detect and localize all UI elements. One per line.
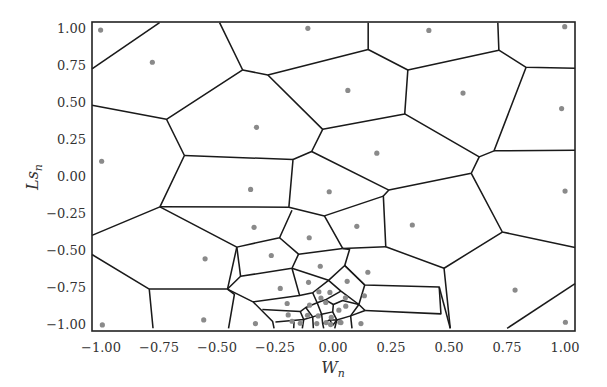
voronoi-edge [499,50,575,68]
data-point [305,313,310,318]
data-point [358,321,363,326]
data-point [362,293,367,298]
data-point [410,222,415,227]
data-point [354,224,359,229]
voronoi-edge [343,248,350,265]
y-tick-label: 0.00 [57,169,86,184]
voronoi-edge [313,317,314,328]
data-point [316,313,321,318]
data-point [307,235,312,240]
data-point [345,88,350,93]
x-tick-label: −1.00 [81,340,121,355]
x-tick-label: 1.00 [551,340,580,355]
data-point [298,321,303,326]
data-point [327,189,332,194]
voronoi-sites [98,24,568,327]
data-point [251,225,256,230]
voronoi-chart: 1.00 0.75 0.50 0.25 0.00 −0.25 −0.50 −0.… [0,0,607,387]
data-point [365,270,370,275]
voronoi-edge [323,70,408,129]
data-point [426,28,431,33]
voronoi-edge [280,238,343,254]
y-axis-ticks: 1.00 0.75 0.50 0.25 0.00 −0.25 −0.50 −0.… [46,21,86,332]
x-axis-ticks: −1.00 −0.75 −0.50 −0.25 0.00 0.25 0.50 0… [81,340,579,355]
voronoi-edge [149,247,237,289]
voronoi-edge [405,67,526,157]
voronoi-edge [351,316,352,328]
x-tick-label: −0.75 [139,340,179,355]
x-tick-label: 0.50 [435,340,464,355]
data-point [338,320,343,325]
data-point [323,300,328,305]
data-point [318,296,323,301]
voronoi-edge [228,289,235,328]
x-tick-label: 0.00 [319,340,348,355]
data-point [374,151,379,156]
data-point [100,322,105,327]
data-point [99,159,104,164]
data-point [98,27,103,32]
data-point [203,256,208,261]
x-tick-label: −0.50 [197,340,237,355]
data-point [278,286,283,291]
voronoi-edge [300,280,329,295]
voronoi-edge [343,247,386,249]
voronoi-edge [494,150,575,151]
plot-area [92,23,575,329]
x-axis-label: Wn [321,358,345,380]
voronoi-edges [92,23,575,329]
voronoi-edge [324,196,383,216]
data-point [305,26,310,31]
x-tick-label: 0.75 [493,340,522,355]
data-point [248,187,253,192]
y-tick-label: −1.00 [46,317,86,332]
data-point [562,188,567,193]
voronoi-edge [312,151,480,190]
data-point [328,322,333,327]
data-point [254,125,259,130]
x-tick-label: 0.25 [377,340,406,355]
voronoi-edge [471,173,575,247]
voronoi-edge [322,314,324,328]
data-point [512,287,517,292]
voronoi-edge [383,190,444,268]
voronoi-edge [368,23,499,70]
voronoi-edge [92,23,243,120]
voronoi-edge [92,254,153,328]
voronoi-edge [92,119,184,235]
data-point [285,301,290,306]
data-point [318,264,323,269]
y-tick-label: 1.00 [57,21,86,36]
x-tick-label: −0.25 [255,340,295,355]
data-point [253,321,258,326]
data-point [286,312,291,317]
data-point [562,24,567,29]
y-tick-label: 0.75 [57,58,86,73]
voronoi-edge [237,247,241,276]
data-point [150,60,155,65]
data-point [343,304,348,309]
y-tick-label: −0.25 [46,206,86,221]
data-point [329,315,334,320]
y-tick-label: −0.75 [46,280,86,295]
data-point [289,319,294,324]
voronoi-edge [243,23,369,75]
data-point [345,279,350,284]
voronoi-edge [262,293,317,312]
y-tick-label: 0.50 [57,95,86,110]
data-point [336,308,341,313]
data-point [563,320,568,325]
y-tick-label: 0.25 [57,132,86,147]
data-point [324,320,329,325]
voronoi-edge [160,207,292,247]
data-point [460,91,465,96]
data-point [314,321,319,326]
y-axis-label: Lsn [23,164,45,191]
data-point [559,106,564,111]
data-point [269,253,274,258]
data-point [343,295,348,300]
data-point [327,290,332,295]
data-point [316,289,321,294]
data-point [306,280,311,285]
y-tick-label: −0.50 [46,243,86,258]
